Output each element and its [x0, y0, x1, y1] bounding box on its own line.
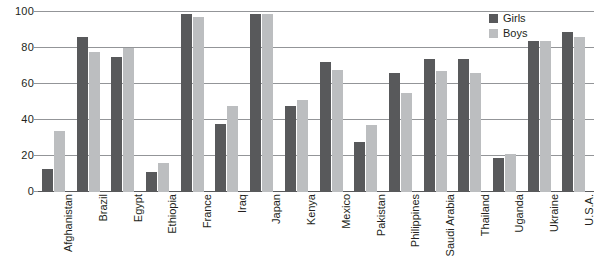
bar-girls [389, 73, 400, 192]
bar-boys [505, 154, 516, 192]
bar-boys [540, 41, 551, 192]
bar-group [143, 12, 178, 192]
bar-boys [227, 106, 238, 192]
legend-item-boys: Boys [489, 27, 559, 40]
x-axis-label: Kenya [304, 194, 318, 275]
bar-boys [366, 125, 377, 192]
bar-girls [146, 172, 157, 192]
legend-label: Girls [503, 13, 526, 24]
bar-boys [401, 93, 412, 192]
y-tick-label-40: 40 [0, 114, 34, 125]
bar-boys [123, 48, 134, 192]
x-axis-label: Uganda [512, 194, 526, 275]
bar-group [108, 12, 143, 192]
x-axis-label: Egypt [131, 194, 145, 275]
bar-boys [158, 163, 169, 192]
bar-boys [297, 100, 308, 192]
x-axis-label: Philippines [408, 194, 422, 275]
bar-girls [250, 14, 261, 192]
bar-group [386, 12, 421, 192]
bar-group [455, 12, 490, 192]
bar-girls [285, 106, 296, 192]
y-tick-label-100: 100 [0, 6, 34, 17]
bar-girls [424, 59, 435, 192]
bar-girls [215, 124, 226, 192]
bar-group [282, 12, 317, 192]
bar-girls [181, 14, 192, 192]
x-axis-label: Mexico [339, 194, 353, 275]
bar-girls [42, 169, 53, 192]
x-axis-label: Iraq [235, 194, 249, 275]
bar-boys [54, 131, 65, 192]
x-axis-labels: AfghanistanBrazilEgyptEthiopiaFranceIraq… [39, 194, 594, 275]
bar-girls [493, 158, 504, 192]
legend-swatch-icon [489, 14, 498, 23]
bar-girls [77, 37, 88, 192]
bar-group [74, 12, 109, 192]
bar-boys [89, 52, 100, 192]
bar-group [351, 12, 386, 192]
x-axis-label: Pakistan [374, 194, 388, 275]
bar-girls [320, 62, 331, 192]
y-tick-label-20: 20 [0, 150, 34, 161]
bar-girls [111, 57, 122, 192]
bar-girls [354, 142, 365, 192]
x-axis-label: Thailand [478, 194, 492, 275]
y-tick-label-0: 0 [0, 186, 34, 197]
bar-boys [574, 37, 585, 192]
bar-girls [562, 32, 573, 192]
x-axis-label: Japan [269, 194, 283, 275]
y-axis: 020406080100 [0, 0, 34, 275]
x-axis-label: Brazil [96, 194, 110, 275]
legend-label: Boys [503, 28, 527, 39]
bar-boys [193, 17, 204, 192]
bar-group [421, 12, 456, 192]
bar-boys [262, 14, 273, 192]
bar-girls [528, 41, 539, 192]
y-tick-label-60: 60 [0, 78, 34, 89]
bar-group [212, 12, 247, 192]
x-axis-label: U.S.A. [582, 194, 596, 275]
x-axis-label: France [200, 194, 214, 275]
x-axis-label: Ukraine [547, 194, 561, 275]
legend-item-girls: Girls [489, 12, 559, 25]
bar-group [559, 12, 594, 192]
x-axis-label: Saudi Arabia [443, 194, 457, 275]
bar-girls [458, 59, 469, 192]
y-tick-label-80: 80 [0, 42, 34, 53]
legend-swatch-icon [489, 29, 498, 38]
bar-boys [332, 70, 343, 192]
bar-group [247, 12, 282, 192]
bar-boys [436, 71, 447, 192]
x-axis-label: Ethiopia [165, 194, 179, 275]
bar-group [39, 12, 74, 192]
bar-group [178, 12, 213, 192]
bar-chart: 020406080100 AfghanistanBrazilEgyptEthio… [0, 0, 599, 275]
x-axis-label: Afghanistan [61, 194, 75, 275]
legend: GirlsBoys [489, 12, 559, 42]
bar-group [317, 12, 352, 192]
bar-boys [470, 73, 481, 192]
